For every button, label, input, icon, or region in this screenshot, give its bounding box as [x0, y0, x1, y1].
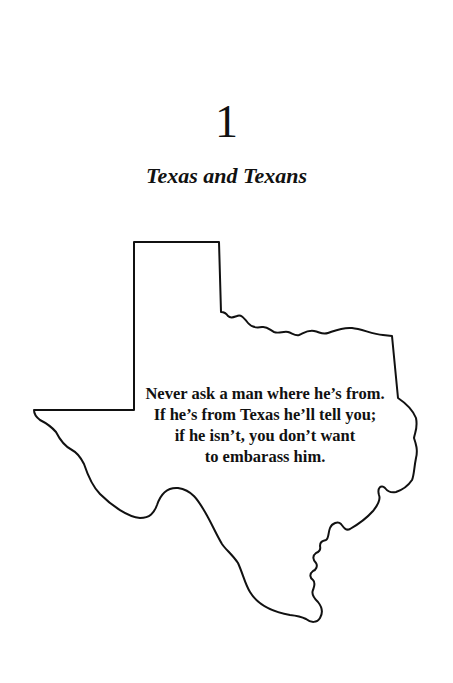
quote-line-4: to embarass him.	[120, 446, 410, 467]
quote-line-1: Never ask a man where he’s from.	[120, 383, 410, 404]
quote-line-2: If he’s from Texas he’ll tell you;	[120, 404, 410, 425]
epigraph-quote: Never ask a man where he’s from. If he’s…	[120, 383, 410, 467]
texas-outline-icon	[0, 0, 453, 683]
quote-line-3: if he isn’t, you don’t want	[120, 425, 410, 446]
